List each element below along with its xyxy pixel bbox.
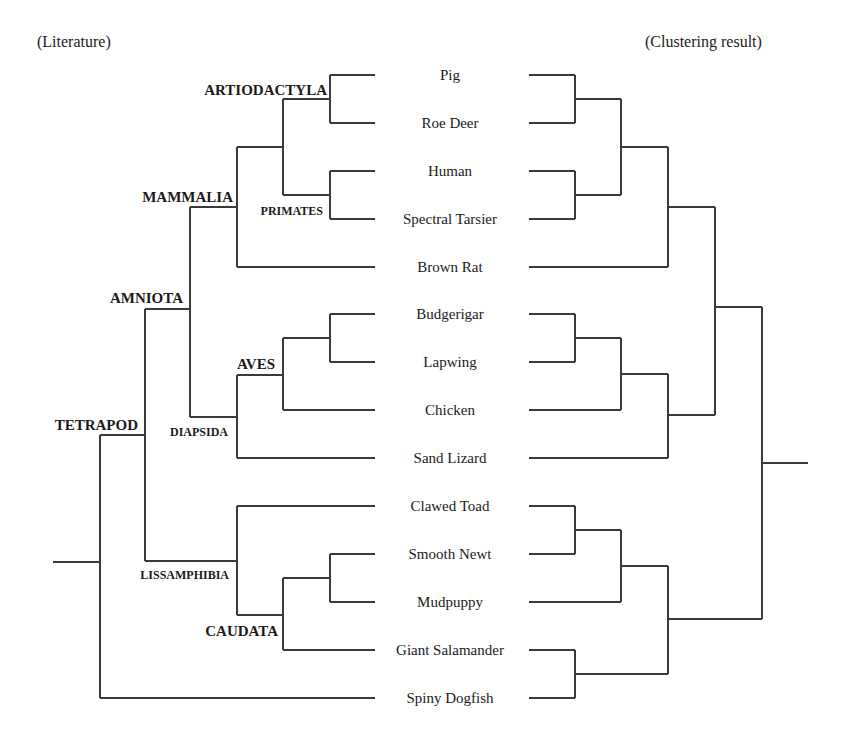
leaf-label: Human	[428, 163, 473, 179]
leaf-label: Sand Lizard	[414, 450, 487, 466]
dendrogram-comparison-figure: (Literature) (Clustering result) PigRoe …	[0, 0, 849, 748]
leaf-label: Pig	[440, 67, 461, 83]
clade-label-primates: PRIMATES	[261, 204, 324, 218]
leaf-label: Clawed Toad	[410, 498, 490, 514]
leaf-label: Mudpuppy	[417, 594, 483, 610]
clustering-tree-title: (Clustering result)	[645, 33, 762, 51]
leaf-label: Roe Deer	[421, 115, 478, 131]
leaf-labels: PigRoe DeerHumanSpectral TarsierBrown Ra…	[396, 67, 504, 706]
clade-label-artiodactyla: ARTIODACTYLA	[204, 82, 327, 98]
clade-label-diapsida: DIAPSIDA	[170, 425, 228, 439]
leaf-label: Budgerigar	[416, 306, 483, 322]
clade-labels: ARTIODACTYLAPRIMATESMAMMALIAAMNIOTAAVESD…	[55, 82, 328, 639]
leaf-label: Lapwing	[423, 354, 477, 370]
clade-label-mammalia: MAMMALIA	[142, 189, 233, 205]
leaf-label: Giant Salamander	[396, 642, 504, 658]
clade-label-amniota: AMNIOTA	[110, 290, 183, 306]
clade-label-tetrapod: TETRAPOD	[55, 417, 139, 433]
leaf-label: Spectral Tarsier	[403, 211, 497, 227]
clustering-result-tree	[529, 75, 808, 698]
literature-tree	[53, 75, 375, 698]
leaf-label: Spiny Dogfish	[406, 690, 494, 706]
clade-label-lissamphibia: LISSAMPHIBIA	[140, 568, 229, 582]
clade-label-aves: AVES	[237, 356, 275, 372]
leaf-label: Smooth Newt	[409, 546, 493, 562]
leaf-label: Brown Rat	[417, 259, 483, 275]
leaf-label: Chicken	[425, 402, 475, 418]
literature-tree-title: (Literature)	[37, 33, 111, 51]
clade-label-caudata: CAUDATA	[205, 623, 278, 639]
